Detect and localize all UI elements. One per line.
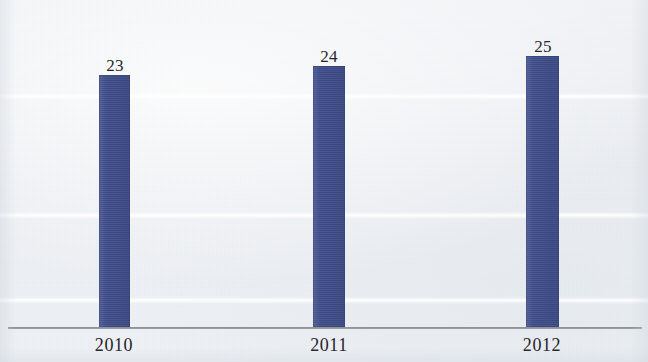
plot-area: 23 24 25 2010 2011 2012 — [0, 0, 648, 362]
bar-value-label-2010: 23 — [85, 56, 145, 75]
bar-2010 — [99, 75, 130, 328]
bar-value-label-2012: 25 — [513, 37, 573, 56]
bar-chart: 23 24 25 2010 2011 2012 — [0, 0, 648, 362]
x-axis-label-2012: 2012 — [492, 334, 592, 356]
x-axis-label-2010: 2010 — [64, 334, 164, 356]
x-axis-label-2011: 2011 — [279, 334, 379, 356]
x-axis-line — [8, 327, 642, 329]
bar-value-label-2011: 24 — [299, 47, 359, 66]
bar-2011 — [313, 66, 345, 328]
bar-2012 — [526, 56, 559, 328]
